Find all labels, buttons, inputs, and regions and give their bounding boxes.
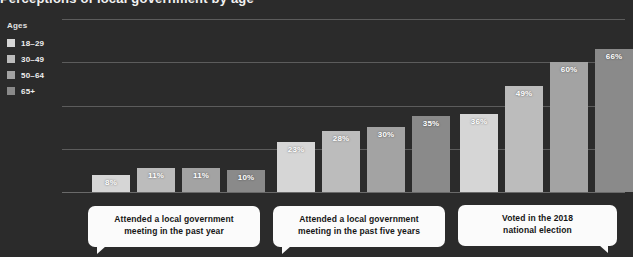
- plot-area: 8%11%11%10%23%28%30%35%36%49%60%66%: [62, 18, 625, 193]
- bar[interactable]: 28%: [322, 131, 360, 192]
- bars-layer: 8%11%11%10%23%28%30%35%36%49%60%66%: [62, 18, 625, 193]
- legend-item-65-plus[interactable]: 65+: [7, 83, 63, 99]
- legend: Ages 18–29 30–49 50–64 65+: [7, 21, 63, 99]
- bar-value-label: 10%: [227, 173, 265, 182]
- bar-value-label: 11%: [137, 171, 175, 180]
- callout-line-1: Voted in the 2018: [462, 212, 613, 224]
- legend-swatch-icon: [7, 39, 15, 47]
- callout-tail: [97, 246, 106, 254]
- legend-item-label: 65+: [21, 87, 35, 96]
- callout-group: Attended a local government meeting in t…: [0, 199, 625, 257]
- bar-value-label: 35%: [412, 119, 450, 128]
- bar[interactable]: 8%: [92, 175, 130, 192]
- bar[interactable]: 10%: [227, 170, 265, 192]
- bar[interactable]: 11%: [182, 168, 220, 192]
- bar[interactable]: 36%: [460, 114, 498, 192]
- bar-value-label: 66%: [595, 52, 633, 61]
- callout-line-2: meeting in the past five years: [277, 225, 441, 237]
- callout-line-2: meeting in the past year: [92, 225, 256, 237]
- bar-value-label: 11%: [182, 171, 220, 180]
- bar[interactable]: 49%: [505, 86, 543, 192]
- callout-voted-2018: Voted in the 2018 national election: [458, 205, 617, 246]
- legend-swatch-icon: [7, 55, 15, 63]
- legend-item-label: 18–29: [21, 39, 44, 48]
- bar[interactable]: 23%: [277, 142, 315, 192]
- legend-item-label: 30–49: [21, 55, 44, 64]
- bar-value-label: 49%: [505, 89, 543, 98]
- callout-line-2: national election: [462, 224, 613, 236]
- legend-item-30-49[interactable]: 30–49: [7, 51, 63, 67]
- bar-value-label: 28%: [322, 134, 360, 143]
- callout-tail: [599, 245, 608, 253]
- callout-tail: [282, 246, 291, 254]
- bar-value-label: 30%: [367, 130, 405, 139]
- legend-item-label: 50–64: [21, 71, 44, 80]
- legend-swatch-icon: [7, 71, 15, 79]
- bar[interactable]: 60%: [550, 62, 588, 192]
- chart-title-strip: Perceptions of local government by age: [0, 0, 625, 7]
- bar[interactable]: 30%: [367, 127, 405, 192]
- legend-item-50-64[interactable]: 50–64: [7, 67, 63, 83]
- legend-title: Ages: [7, 21, 63, 30]
- callout-meeting-past-five-years: Attended a local government meeting in t…: [273, 206, 445, 247]
- bar[interactable]: 11%: [137, 168, 175, 192]
- bar-value-label: 60%: [550, 65, 588, 74]
- bar[interactable]: 66%: [595, 49, 633, 192]
- bar-value-label: 23%: [277, 145, 315, 154]
- legend-item-18-29[interactable]: 18–29: [7, 35, 63, 51]
- bar-value-label: 36%: [460, 117, 498, 126]
- bar-value-label: 8%: [92, 178, 130, 187]
- callout-line-1: Attended a local government: [92, 213, 256, 225]
- page-title: Perceptions of local government by age: [0, 0, 254, 6]
- callout-meeting-past-year: Attended a local government meeting in t…: [88, 206, 260, 247]
- callout-line-1: Attended a local government: [277, 213, 441, 225]
- legend-swatch-icon: [7, 87, 15, 95]
- bar[interactable]: 35%: [412, 116, 450, 192]
